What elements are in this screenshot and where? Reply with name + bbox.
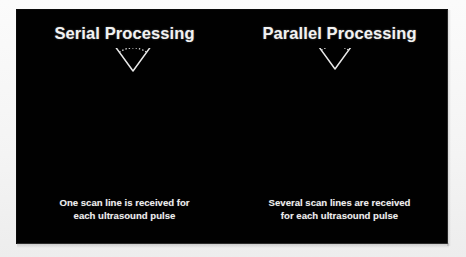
panel-title-serial: Serial Processing [17,24,232,43]
panel-serial-processing: Serial Processing One scan line is recei… [17,10,232,243]
sector-outline [260,48,409,69]
slide-right-shadow [447,10,451,246]
panel-title-parallel: Parallel Processing [232,24,447,43]
slide-bottom-shadow [17,243,449,248]
panel-parallel-processing: Parallel Processing Several scan lines a… [232,10,447,243]
caption-serial-line-1: One scan line is received for [21,196,228,209]
sector-diagram-parallel [232,48,447,193]
caption-serial-line-2: each ultrasound pulse [21,209,228,222]
caption-parallel-line-1: Several scan lines are received [236,196,443,209]
panel-caption-parallel: Several scan lines are received for each… [236,196,443,222]
slide-panel: Serial Processing One scan line is recei… [17,10,447,243]
sector-outline [58,48,207,71]
depth-arc [321,48,348,50]
panel-caption-serial: One scan line is received for each ultra… [21,196,228,222]
depth-arc [119,48,146,52]
sector-diagram-serial [17,48,232,193]
caption-parallel-line-2: for each ultrasound pulse [236,209,443,222]
